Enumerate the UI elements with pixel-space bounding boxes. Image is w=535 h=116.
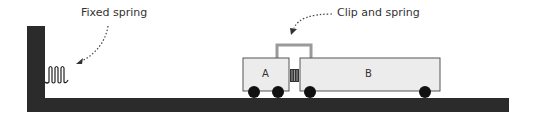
- compressed-spring-icon: [290, 69, 299, 82]
- fixed-spring-label: Fixed spring: [81, 6, 147, 19]
- fixed-spring-arrow: [80, 26, 108, 62]
- wheel: [419, 86, 431, 98]
- arrowhead-icon: [290, 28, 297, 35]
- wheel: [272, 86, 284, 98]
- cart-a-label: A: [262, 68, 269, 79]
- clip-and-spring-label: Clip and spring: [337, 6, 420, 19]
- clip-arrow: [294, 14, 332, 28]
- wheel: [248, 86, 260, 98]
- floor: [27, 98, 509, 112]
- arrowhead-icon: [76, 58, 83, 64]
- clip: [277, 45, 311, 58]
- fixed-spring-icon: [45, 67, 68, 84]
- wheel: [304, 86, 316, 98]
- cart-b-label: B: [365, 68, 372, 79]
